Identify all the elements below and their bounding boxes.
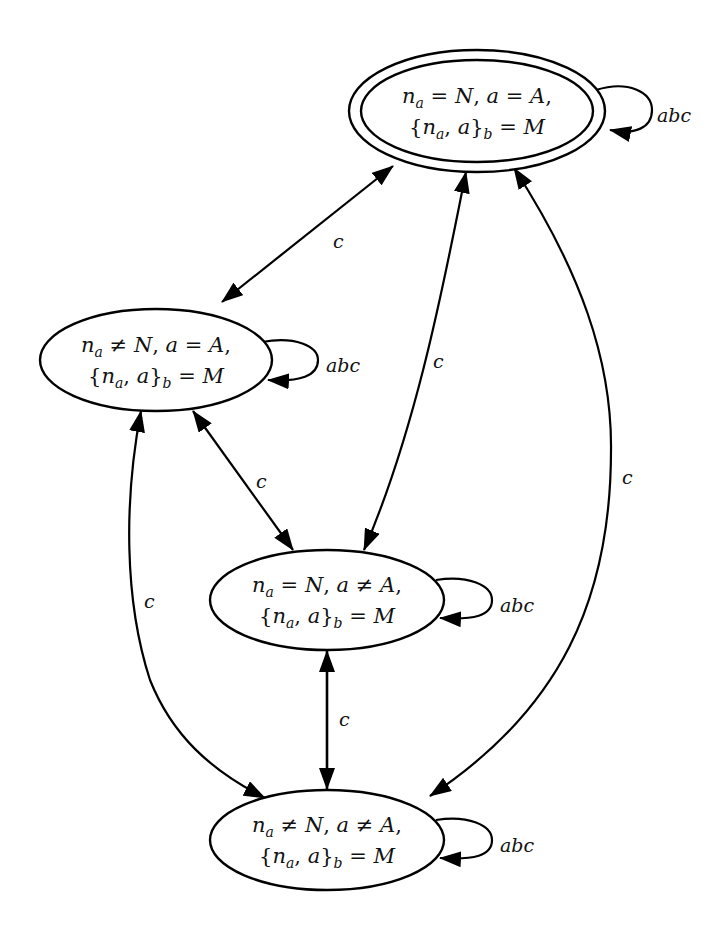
edge-label: c	[333, 230, 344, 252]
edge-left-mid: c	[193, 411, 293, 550]
state-node-middle[interactable]: na = N, a ≠ A, {na, a}b = M	[210, 550, 444, 650]
node-label-line1: na ≠ N, a = A,	[81, 333, 231, 360]
self-loop-top: abc	[596, 86, 691, 131]
self-loop-label: abc	[500, 834, 534, 856]
node-ellipse	[361, 60, 593, 162]
edge-label: c	[339, 708, 350, 730]
self-loop-label: abc	[657, 104, 691, 126]
node-ellipse	[210, 790, 444, 890]
self-loop-label: abc	[326, 354, 360, 376]
state-node-left[interactable]: na ≠ N, a = A, {na, a}b = M	[40, 309, 272, 411]
self-loop-mid: abc	[436, 579, 534, 619]
state-diagram: c c c c c c abc abc abc abc	[0, 0, 726, 934]
edge-label: c	[256, 470, 267, 492]
edge-label: c	[144, 590, 155, 612]
edge-top-left: c	[222, 166, 393, 302]
node-label-line2: {na, a}b = M	[88, 364, 224, 391]
node-label-line1: na = N, a = A,	[402, 84, 552, 111]
edge-label: c	[433, 350, 444, 372]
self-loop-left: abc	[262, 340, 360, 380]
edge-mid-bottom: c	[327, 651, 350, 789]
node-label-line2: {na, a}b = M	[409, 115, 545, 142]
node-ellipse	[40, 309, 272, 411]
state-node-top[interactable]: na = N, a = A, {na, a}b = M	[349, 50, 605, 172]
node-label-line1: na = N, a ≠ A,	[252, 573, 402, 600]
node-label-line2: {na, a}b = M	[259, 604, 395, 631]
node-ellipse	[210, 550, 444, 650]
self-loop-label: abc	[500, 594, 534, 616]
node-label-line2: {na, a}b = M	[259, 844, 395, 871]
self-loop-bottom: abc	[436, 819, 534, 859]
edge-top-mid: c	[364, 172, 466, 550]
state-node-bottom[interactable]: na ≠ N, a ≠ A, {na, a}b = M	[210, 790, 444, 890]
node-label-line1: na ≠ N, a ≠ A,	[252, 813, 402, 840]
edge-label: c	[622, 466, 633, 488]
edge-top-bottom: c	[430, 168, 633, 796]
